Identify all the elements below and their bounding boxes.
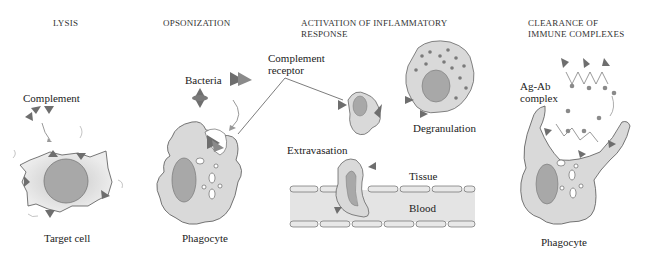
inflammation-title-line1: ACTIVATION OF INFLAMMATORY [301, 18, 447, 29]
complement-receptor-label-line2: receptor [268, 64, 304, 77]
arrow-icon [232, 100, 239, 127]
inflammation-title-line2: RESPONSE [301, 29, 348, 40]
tissue-label: Tissue [409, 170, 437, 183]
phagocyte-label: Phagocyte [182, 232, 228, 245]
target-cell-label: Target cell [44, 232, 90, 245]
clearance-title-line2: IMMUNE COMPLEXES [528, 29, 624, 40]
phagocyte-label-clearance: Phagocyte [541, 236, 587, 249]
blood-label: Blood [409, 202, 436, 215]
phagocyte-nucleus [536, 164, 558, 204]
arrow-icon [610, 96, 614, 116]
phagocyte-cell [157, 122, 242, 225]
ag-ab-complex-label-line2: complex [520, 92, 558, 105]
complement-label: Complement [23, 92, 80, 105]
lysis-title: LYSIS [53, 18, 78, 29]
extravasation-label: Extravasation [287, 144, 347, 157]
receptor-pointer [238, 78, 285, 134]
clearance-title-line1: CLEARANCE OF [528, 18, 598, 29]
opsonization-title: OPSONIZATION [163, 18, 230, 29]
phagocyte-nucleus [172, 158, 196, 202]
blood-vessel [290, 190, 475, 222]
target-cell-nucleus [44, 159, 88, 203]
degranulation-label: Degranulation [413, 122, 476, 135]
complement-icons [25, 106, 54, 121]
bacteria-label: Bacteria [185, 74, 222, 87]
opsonization-panel [157, 72, 252, 224]
ag-ab-complex-label-line1: Ag-Ab [520, 80, 551, 93]
arrow-icon [42, 123, 50, 140]
lysis-panel [13, 106, 123, 218]
complement-receptor-label-line1: Complement [268, 52, 325, 65]
